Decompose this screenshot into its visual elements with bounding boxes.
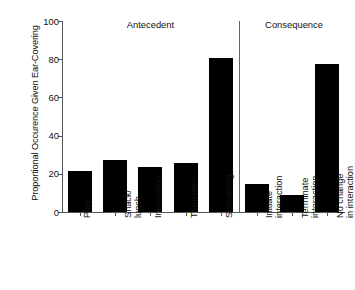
x-label-instruction: Instruction [154,176,164,218]
y-tick-label-20: 20 [49,167,59,180]
group-label-antecedent: Antecedent [127,19,174,30]
x-label-snack-lunch: Snack/ lunch [124,190,143,218]
x-label-terminate-interaction: Terminate interaction [301,176,320,218]
y-tick-label-0: 0 [54,206,59,219]
x-label-screaming: Screaming [225,174,235,218]
y-tick-label-40: 40 [49,129,59,142]
x-label-initiate-interaction: Initiate interaction [265,176,284,218]
group-divider-line [239,21,240,212]
y-tick-label-80: 80 [49,53,59,66]
x-axis-labels: Play Snack/ lunch Instruction Transition… [62,216,345,290]
y-axis-line [62,21,63,212]
y-axis-title: Proportional Occurence Given Ear-Coverin… [30,0,40,228]
x-label-play: Play [83,200,93,218]
x-label-no-change-in-interaction: No change in interaction [336,166,355,218]
y-tick-label-60: 60 [49,91,59,104]
y-tick-label-100: 100 [43,15,59,28]
group-label-consequence: Consequence [265,19,323,30]
x-label-transition: Transition [190,178,200,218]
